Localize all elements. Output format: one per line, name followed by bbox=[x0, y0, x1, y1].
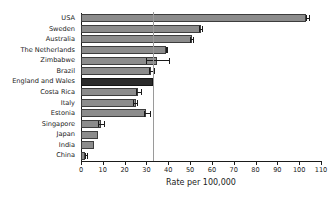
x-axis-tick bbox=[168, 161, 169, 165]
bar-row bbox=[81, 129, 321, 140]
error-bar bbox=[190, 39, 194, 40]
bar bbox=[81, 99, 136, 107]
x-axis-tick-label: 40 bbox=[164, 166, 172, 174]
bar bbox=[81, 25, 201, 33]
x-axis-tick bbox=[125, 161, 126, 165]
error-bar bbox=[306, 18, 310, 19]
x-axis-tick-label: 50 bbox=[186, 166, 194, 174]
bar-row bbox=[81, 24, 321, 35]
y-axis-label: Sweden bbox=[49, 24, 75, 35]
x-axis-tick-label: 0 bbox=[79, 166, 83, 174]
bar-row bbox=[81, 119, 321, 130]
x-axis-tick-label: 110 bbox=[315, 166, 328, 174]
error-bar bbox=[144, 113, 151, 114]
bar bbox=[81, 131, 98, 139]
error-bar bbox=[98, 124, 105, 125]
error-bar bbox=[136, 92, 143, 93]
x-axis-tick-label: 70 bbox=[230, 166, 238, 174]
y-axis-category-labels: USASwedenAustraliaThe NetherlandsZimbabw… bbox=[0, 13, 78, 161]
error-bar bbox=[133, 103, 137, 104]
y-axis-label: Estonia bbox=[51, 108, 75, 119]
x-axis-tick-label: 60 bbox=[208, 166, 216, 174]
x-axis-tick bbox=[234, 161, 235, 165]
y-axis-label: Japan bbox=[57, 129, 75, 140]
y-axis-label: The Netherlands bbox=[20, 45, 75, 56]
x-axis-tick bbox=[81, 161, 82, 165]
x-axis-tick-label: 10 bbox=[99, 166, 107, 174]
bar-row bbox=[81, 108, 321, 119]
y-axis-label: Australia bbox=[46, 34, 75, 45]
error-bar bbox=[166, 50, 168, 51]
bar-row bbox=[81, 150, 321, 161]
x-axis-tick bbox=[212, 161, 213, 165]
y-axis-label: Singapore bbox=[42, 119, 75, 130]
y-axis-label: Zimbabwe bbox=[40, 55, 75, 66]
error-bar bbox=[199, 29, 203, 30]
bar-row bbox=[81, 76, 321, 87]
x-axis-tick bbox=[190, 161, 191, 165]
y-axis-label: Costa Rica bbox=[40, 87, 75, 98]
y-axis-label: India bbox=[59, 140, 75, 151]
y-axis-label: USA bbox=[61, 13, 75, 24]
error-bar bbox=[149, 71, 156, 72]
bar bbox=[81, 141, 94, 149]
y-axis-label: Brazil bbox=[57, 66, 75, 77]
x-axis-tick-label: 80 bbox=[251, 166, 259, 174]
x-axis-tick bbox=[299, 161, 300, 165]
bar-row bbox=[81, 55, 321, 66]
y-axis-label: England and Wales bbox=[12, 76, 75, 87]
plot-area bbox=[81, 13, 321, 161]
bar-row bbox=[81, 45, 321, 56]
bar bbox=[81, 109, 146, 117]
y-axis-label: China bbox=[56, 150, 75, 161]
bar-row bbox=[81, 34, 321, 45]
bar-row bbox=[81, 13, 321, 24]
bar bbox=[81, 78, 153, 86]
x-axis-tick-label: 100 bbox=[293, 166, 306, 174]
bar-row bbox=[81, 66, 321, 77]
x-axis-tick bbox=[103, 161, 104, 165]
x-axis-tick-label: 90 bbox=[273, 166, 281, 174]
bar-chart-figure: USASwedenAustraliaThe NetherlandsZimbabw… bbox=[0, 0, 332, 200]
bar bbox=[81, 88, 138, 96]
reference-line bbox=[153, 12, 154, 162]
bar-row bbox=[81, 140, 321, 151]
bar bbox=[81, 14, 306, 22]
bar-row bbox=[81, 98, 321, 109]
x-axis-tick-label: 20 bbox=[120, 166, 128, 174]
bar-row bbox=[81, 87, 321, 98]
x-axis-tick bbox=[256, 161, 257, 165]
x-axis-tick bbox=[146, 161, 147, 165]
x-axis-tick bbox=[277, 161, 278, 165]
bar bbox=[81, 35, 192, 43]
y-axis-label: Italy bbox=[61, 98, 75, 109]
error-bar bbox=[146, 60, 170, 61]
error-bar bbox=[85, 155, 87, 156]
x-axis-title: Rate per 100,000 bbox=[81, 178, 321, 187]
x-axis-line bbox=[81, 161, 321, 162]
x-axis-tick-label: 30 bbox=[142, 166, 150, 174]
x-axis-tick bbox=[321, 161, 322, 165]
bar bbox=[81, 67, 151, 75]
